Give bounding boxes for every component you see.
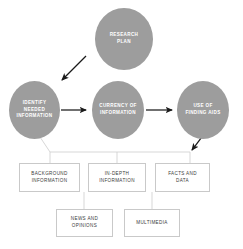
- node-research-plan[interactable]: RESEARCH PLAN: [95, 8, 153, 70]
- box-multimedia[interactable]: MULTIMEDIA: [124, 209, 180, 237]
- box-multimedia-label: MULTIMEDIA: [135, 220, 169, 227]
- box-news-and-opinions[interactable]: NEWS AND OPINIONS: [56, 209, 113, 237]
- arrow-research-plan-to-identify: [62, 56, 86, 80]
- node-identify-needed-information-label: IDENTIFY NEEDED INFORMATION: [15, 100, 55, 120]
- node-use-of-finding-aids[interactable]: USE OF FINDING AIDS: [177, 81, 229, 139]
- box-facts-and-data[interactable]: FACTS AND DATA: [155, 163, 210, 192]
- node-research-plan-label: RESEARCH PLAN: [108, 32, 141, 45]
- box-background-information[interactable]: BACKGROUND INFORMATION: [19, 163, 80, 192]
- node-currency-of-information-label: CURRENCY OF INFORMATION: [97, 103, 138, 116]
- diagram-canvas: RESEARCH PLAN IDENTIFY NEEDED INFORMATIO…: [0, 0, 243, 249]
- connector-identify-to-bus: [40, 137, 50, 152]
- node-identify-needed-information[interactable]: IDENTIFY NEEDED INFORMATION: [9, 81, 60, 139]
- box-in-depth-information-label: IN-DEPTH INFORMATION: [98, 171, 136, 185]
- box-news-and-opinions-label: NEWS AND OPINIONS: [70, 216, 99, 230]
- node-use-of-finding-aids-label: USE OF FINDING AIDS: [183, 103, 222, 116]
- node-currency-of-information[interactable]: CURRENCY OF INFORMATION: [92, 81, 144, 139]
- box-in-depth-information[interactable]: IN-DEPTH INFORMATION: [88, 163, 146, 192]
- box-background-information-label: BACKGROUND INFORMATION: [30, 171, 68, 185]
- box-facts-and-data-label: FACTS AND DATA: [167, 171, 198, 185]
